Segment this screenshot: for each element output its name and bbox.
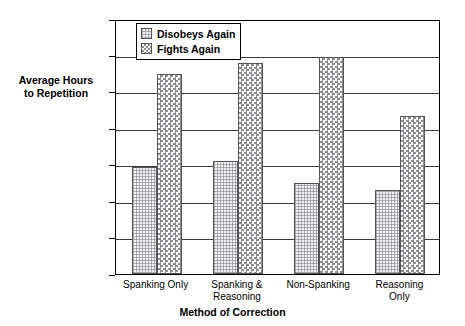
x-tick-label-line-1: Reasoning [196,291,277,303]
x-tick-label-spanking-reasoning: Spanking &Reasoning [196,279,277,303]
bar-reasoning-only-fights-again [400,116,425,274]
bar-spanking-reasoning-disobeys-again [213,161,238,274]
legend-swatch-disobeys-again [141,28,152,39]
x-tick-label-line-0: Non-Spanking [278,279,359,291]
legend-swatch-fights-again [141,43,152,54]
x-tick-label-line-1: Only [359,291,440,303]
plot-area: Disobeys Again Fights Again [115,20,440,275]
chart-legend: Disobeys Again Fights Again [136,23,241,60]
x-tick-label-line-0: Reasoning [359,279,440,291]
bar-reasoning-only-disobeys-again [375,190,400,274]
x-tick-label-reasoning-only: ReasoningOnly [359,279,440,303]
bar-non-spanking-fights-again [319,57,344,274]
legend-item-disobeys-again: Disobeys Again [141,26,235,41]
bar-spanking-only-fights-again [157,74,182,274]
x-tick-label-line-0: Spanking & [196,279,277,291]
bar-spanking-only-disobeys-again [132,167,157,274]
bar-chart-figure: Average Hoursto Repetition 01234567 Diso… [0,0,465,326]
legend-label-disobeys-again: Disobeys Again [157,28,235,40]
legend-item-fights-again: Fights Again [141,41,235,56]
legend-label-fights-again: Fights Again [157,43,220,55]
x-axis-title: Method of Correction [0,306,465,318]
y-axis: 01234567 [0,0,115,326]
x-tick-label-non-spanking: Non-Spanking [278,279,359,291]
bar-spanking-reasoning-fights-again [238,63,263,274]
x-tick-label-line-0: Spanking Only [115,279,196,291]
x-tick-label-spanking-only: Spanking Only [115,279,196,291]
bar-non-spanking-disobeys-again [294,183,319,274]
